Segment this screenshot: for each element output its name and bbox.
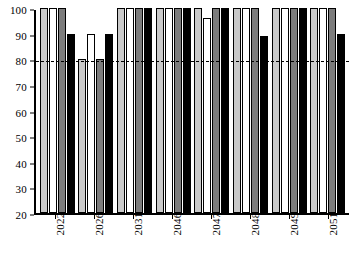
bar-groups bbox=[36, 10, 349, 213]
bar-2049-series-4 bbox=[299, 8, 307, 213]
x-axis-slot-2022: 2022 bbox=[38, 215, 73, 274]
y-axis: 2030405060708090100 bbox=[0, 0, 34, 215]
bar-2049-series-2 bbox=[281, 8, 289, 213]
x-axis-slot-2026: 2026 bbox=[77, 215, 112, 274]
bar-2051-series-2 bbox=[319, 8, 327, 213]
bar-group-2046 bbox=[156, 10, 191, 213]
bar-2046-series-1 bbox=[156, 8, 164, 213]
bar-2026-series-1 bbox=[78, 59, 86, 213]
bar-2046-series-4 bbox=[183, 8, 191, 213]
y-axis-tick-label: 40 bbox=[16, 158, 27, 169]
x-axis-tick-label: 2046 bbox=[172, 213, 183, 236]
group-spacer bbox=[345, 10, 349, 213]
bar-group-2051 bbox=[310, 10, 345, 213]
x-axis-tick-label: 2051 bbox=[328, 213, 339, 236]
bar-group-2047 bbox=[194, 10, 229, 213]
x-axis-slot-2049: 2049 bbox=[271, 215, 306, 274]
bar-2046-series-2 bbox=[165, 8, 173, 213]
bar-2047-series-2 bbox=[203, 18, 211, 213]
bar-2048-series-1 bbox=[233, 8, 241, 213]
bar-2047-series-4 bbox=[221, 8, 229, 213]
x-tick-container: 20222026203120462047204820492051 bbox=[34, 215, 349, 274]
bar-2031-series-4 bbox=[144, 8, 152, 213]
y-axis-tick-label: 100 bbox=[10, 5, 27, 16]
bar-group-2022 bbox=[40, 10, 75, 213]
x-axis-tick-label: 2049 bbox=[289, 213, 300, 236]
bar-2026-series-3 bbox=[96, 59, 104, 213]
y-axis-tick-label: 50 bbox=[16, 133, 27, 144]
bar-group-2031 bbox=[117, 10, 152, 213]
bar-2051-series-3 bbox=[328, 8, 336, 213]
x-axis: 20222026203120462047204820492051 bbox=[34, 215, 349, 274]
bar-2047-series-3 bbox=[212, 8, 220, 213]
bar-chart: 2030405060708090100 20222026203120462047… bbox=[0, 0, 353, 274]
x-axis-tick-label: 2026 bbox=[94, 213, 105, 236]
y-axis-tick-label: 70 bbox=[16, 81, 27, 92]
bar-2022-series-2 bbox=[49, 8, 57, 213]
bar-2047-series-1 bbox=[194, 8, 202, 213]
bar-2048-series-2 bbox=[242, 8, 250, 213]
plot-inner bbox=[36, 10, 349, 213]
y-axis-tick-label: 90 bbox=[16, 30, 27, 41]
bar-2026-series-2 bbox=[87, 34, 95, 213]
x-axis-tick-label: 2048 bbox=[250, 213, 261, 236]
x-axis-slot-2031: 2031 bbox=[116, 215, 151, 274]
bar-2022-series-1 bbox=[40, 8, 48, 213]
bar-2031-series-1 bbox=[117, 8, 125, 213]
y-axis-tick-label: 60 bbox=[16, 107, 27, 118]
bar-2031-series-3 bbox=[135, 8, 143, 213]
x-axis-slot-2046: 2046 bbox=[155, 215, 190, 274]
bar-group-2048 bbox=[233, 10, 268, 213]
y-axis-tick-label: 20 bbox=[16, 210, 27, 221]
bar-2031-series-2 bbox=[126, 8, 134, 213]
y-axis-tick-label: 80 bbox=[16, 56, 27, 67]
x-axis-tick-label: 2022 bbox=[55, 213, 66, 236]
x-axis-tick-label: 2031 bbox=[133, 213, 144, 236]
bar-group-2049 bbox=[272, 10, 307, 213]
bar-group-2026 bbox=[78, 10, 113, 213]
x-axis-slot-2048: 2048 bbox=[232, 215, 267, 274]
y-axis-tick-label: 30 bbox=[16, 184, 27, 195]
bar-2026-series-4 bbox=[105, 34, 113, 213]
bar-2049-series-1 bbox=[272, 8, 280, 213]
plot-area bbox=[34, 10, 349, 215]
x-axis-slot-2047: 2047 bbox=[193, 215, 228, 274]
bar-2048-series-4 bbox=[260, 36, 268, 213]
bar-2049-series-3 bbox=[290, 8, 298, 213]
x-axis-spacer bbox=[345, 215, 349, 274]
bar-2046-series-3 bbox=[174, 8, 182, 213]
bar-2022-series-3 bbox=[58, 8, 66, 213]
bar-2051-series-1 bbox=[310, 8, 318, 213]
x-axis-tick-label: 2047 bbox=[211, 213, 222, 236]
bar-2048-series-3 bbox=[251, 8, 259, 213]
bar-2022-series-4 bbox=[67, 34, 75, 213]
bar-2051-series-4 bbox=[337, 34, 345, 213]
x-axis-slot-2051: 2051 bbox=[310, 215, 345, 274]
